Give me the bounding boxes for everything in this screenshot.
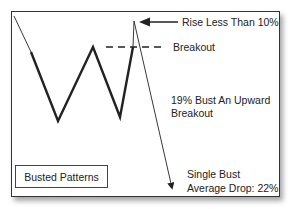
bust-label-line1: 19% Bust An Upward bbox=[171, 94, 270, 107]
lead-in-line bbox=[14, 16, 31, 52]
legend-label: Busted Patterns bbox=[24, 171, 99, 183]
breakout-label: Breakout bbox=[173, 41, 215, 54]
rise-label: Rise Less Than 10% bbox=[182, 16, 279, 29]
rise-line bbox=[133, 21, 134, 47]
rise-arrow-head bbox=[139, 18, 150, 27]
single-bust-line1: Single Bust bbox=[187, 168, 240, 181]
legend-box: Busted Patterns bbox=[15, 165, 108, 188]
drop-arrow bbox=[134, 21, 172, 188]
single-bust-line2: Average Drop: 22% bbox=[187, 182, 278, 195]
double-bottom-w bbox=[31, 47, 133, 121]
bust-label-line2: Breakout bbox=[171, 107, 213, 120]
